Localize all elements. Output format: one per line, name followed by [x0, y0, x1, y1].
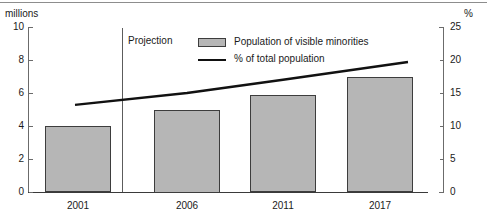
right-axis-tick-label: 0 — [450, 187, 456, 197]
category-label: 2006 — [154, 200, 220, 211]
left-axis-tick-label: 2 — [6, 154, 24, 164]
right-axis-tick-label: 20 — [450, 55, 461, 65]
right-axis-tick — [440, 60, 444, 61]
right-axis-tick — [440, 27, 444, 28]
left-axis-tick — [29, 126, 33, 127]
left-axis-tick-label: 0 — [6, 187, 24, 197]
legend-bar-swatch-icon — [198, 38, 226, 47]
left-axis-tick — [29, 27, 33, 28]
left-axis-tick-label: 4 — [6, 121, 24, 131]
projection-annotation-label: Projection — [128, 35, 172, 46]
legend-line-swatch-icon — [198, 59, 226, 61]
left-axis-tick — [29, 93, 33, 94]
right-axis-unit-label: % — [464, 8, 473, 19]
category-label: 2011 — [250, 200, 316, 211]
top-rule — [0, 2, 487, 3]
legend-item-bar-label: Population of visible minorities — [234, 36, 369, 48]
right-axis-tick — [440, 192, 444, 193]
left-axis-tick — [29, 60, 33, 61]
left-axis-unit-label: millions — [5, 8, 38, 19]
left-axis-spine — [28, 27, 29, 193]
right-axis-tick — [440, 159, 444, 160]
chart-figure: millions % 0246810 0510152025 2001200620… — [0, 0, 487, 221]
left-axis-tick — [29, 159, 33, 160]
left-axis-tick — [29, 192, 33, 193]
projection-divider-line — [122, 28, 123, 192]
bar — [154, 110, 220, 193]
x-axis-baseline — [28, 192, 428, 193]
right-axis-tick-label: 25 — [450, 22, 461, 32]
legend-item-line-label: % of total population — [234, 53, 325, 65]
category-label: 2001 — [45, 200, 111, 211]
right-axis-tick — [440, 126, 444, 127]
bar — [250, 95, 316, 192]
left-axis-tick-label: 6 — [6, 88, 24, 98]
bar — [347, 77, 413, 192]
right-axis-tick-label: 15 — [450, 88, 461, 98]
left-axis-tick-label: 8 — [6, 55, 24, 65]
bar — [45, 126, 111, 192]
left-axis-tick-label: 10 — [6, 22, 24, 32]
category-label: 2017 — [347, 200, 413, 211]
right-axis-tick — [440, 93, 444, 94]
right-axis-tick-label: 10 — [450, 121, 461, 131]
right-axis-tick-label: 5 — [450, 154, 456, 164]
right-axis-spine — [443, 27, 444, 193]
